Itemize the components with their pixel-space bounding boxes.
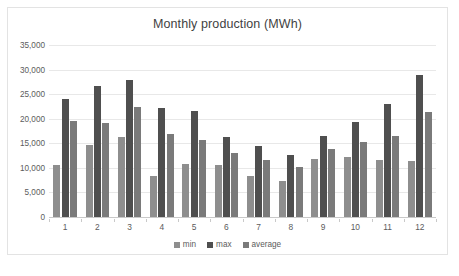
bar-average-month-10[interactable] bbox=[360, 142, 367, 217]
bar-min-month-4[interactable] bbox=[150, 176, 157, 217]
bar-max-month-12[interactable] bbox=[416, 75, 423, 218]
plot-area bbox=[49, 45, 436, 217]
bar-max-month-2[interactable] bbox=[94, 86, 101, 217]
legend-swatch-average bbox=[243, 242, 249, 248]
x-axis-label-5: 5 bbox=[192, 222, 197, 232]
x-axis-label-7: 7 bbox=[256, 222, 261, 232]
x-axis-tick bbox=[49, 219, 50, 222]
x-axis-label-6: 6 bbox=[224, 222, 229, 232]
bar-max-month-3[interactable] bbox=[126, 80, 133, 217]
legend-item-min[interactable]: min bbox=[174, 240, 196, 249]
bars-layer bbox=[49, 45, 436, 217]
y-axis-tick-label: 10,000 bbox=[8, 163, 45, 172]
bar-min-month-6[interactable] bbox=[215, 165, 222, 217]
bar-max-month-4[interactable] bbox=[158, 108, 165, 217]
bar-group-month-8 bbox=[279, 45, 302, 217]
y-axis-labels: 05,00010,00015,00020,00025,00030,00035,0… bbox=[8, 45, 45, 217]
y-axis-tick-label: 5,000 bbox=[8, 188, 45, 197]
bar-min-month-12[interactable] bbox=[408, 161, 415, 218]
bar-average-month-11[interactable] bbox=[392, 136, 399, 217]
bar-min-month-1[interactable] bbox=[53, 165, 60, 217]
y-axis-tick-label: 15,000 bbox=[8, 139, 45, 148]
bar-min-month-8[interactable] bbox=[279, 181, 286, 217]
bar-group-month-2 bbox=[86, 45, 109, 217]
x-axis-label-4: 4 bbox=[160, 222, 165, 232]
chart-container: Monthly production (MWh) 05,00010,00015,… bbox=[7, 7, 448, 255]
bar-max-month-8[interactable] bbox=[287, 155, 294, 217]
bar-group-month-7 bbox=[247, 45, 270, 217]
bar-group-month-11 bbox=[376, 45, 399, 217]
bar-average-month-3[interactable] bbox=[134, 107, 141, 217]
y-axis-tick-label: 20,000 bbox=[8, 114, 45, 123]
legend-item-max[interactable]: max bbox=[207, 240, 231, 249]
bar-max-month-11[interactable] bbox=[384, 104, 391, 217]
x-axis-tick bbox=[436, 219, 437, 222]
chart-title: Monthly production (MWh) bbox=[8, 17, 447, 31]
bar-average-month-5[interactable] bbox=[199, 140, 206, 217]
bar-average-month-12[interactable] bbox=[425, 112, 432, 217]
y-axis-tick-label: 0 bbox=[8, 213, 45, 222]
bar-min-month-2[interactable] bbox=[86, 145, 93, 217]
x-axis-label-10: 10 bbox=[351, 222, 360, 232]
x-axis-tick bbox=[210, 219, 211, 222]
bar-min-month-10[interactable] bbox=[344, 157, 351, 217]
x-axis-tick bbox=[178, 219, 179, 222]
x-axis-labels: 123456789101112 bbox=[49, 219, 436, 235]
x-axis-label-11: 11 bbox=[383, 222, 392, 232]
x-axis-label-1: 1 bbox=[63, 222, 68, 232]
bar-average-month-9[interactable] bbox=[328, 149, 335, 217]
x-axis-tick bbox=[146, 219, 147, 222]
x-axis-label-8: 8 bbox=[289, 222, 294, 232]
x-axis-tick bbox=[275, 219, 276, 222]
legend-label-average: average bbox=[252, 240, 282, 249]
x-axis-line bbox=[49, 217, 436, 218]
x-axis-tick bbox=[404, 219, 405, 222]
x-axis-tick bbox=[243, 219, 244, 222]
bar-max-month-6[interactable] bbox=[223, 137, 230, 217]
bar-average-month-7[interactable] bbox=[263, 160, 270, 217]
bar-group-month-3 bbox=[118, 45, 141, 217]
bar-group-month-1 bbox=[53, 45, 76, 217]
x-axis-tick bbox=[114, 219, 115, 222]
x-axis-tick bbox=[372, 219, 373, 222]
bar-max-month-7[interactable] bbox=[255, 146, 262, 217]
bar-group-month-6 bbox=[215, 45, 238, 217]
legend-swatch-max bbox=[207, 242, 213, 248]
legend-label-min: min bbox=[183, 240, 196, 249]
legend-swatch-min bbox=[174, 242, 180, 248]
bar-min-month-5[interactable] bbox=[182, 164, 189, 217]
bar-group-month-12 bbox=[408, 45, 431, 217]
bar-max-month-5[interactable] bbox=[191, 111, 198, 217]
chart-legend: minmaxaverage bbox=[8, 240, 447, 249]
y-axis-tick-label: 30,000 bbox=[8, 65, 45, 74]
bar-max-month-1[interactable] bbox=[62, 99, 69, 217]
bar-min-month-7[interactable] bbox=[247, 176, 254, 217]
y-axis-tick-label: 25,000 bbox=[8, 90, 45, 99]
bar-average-month-2[interactable] bbox=[102, 123, 109, 217]
bar-average-month-1[interactable] bbox=[70, 121, 77, 217]
bar-average-month-4[interactable] bbox=[167, 134, 174, 217]
x-axis-label-3: 3 bbox=[127, 222, 132, 232]
bar-group-month-10 bbox=[344, 45, 367, 217]
bar-min-month-11[interactable] bbox=[376, 160, 383, 217]
bar-min-month-9[interactable] bbox=[311, 159, 318, 217]
bar-min-month-3[interactable] bbox=[118, 137, 125, 217]
x-axis-tick bbox=[339, 219, 340, 222]
legend-item-average[interactable]: average bbox=[243, 240, 282, 249]
x-axis-label-12: 12 bbox=[415, 222, 424, 232]
bar-average-month-6[interactable] bbox=[231, 153, 238, 217]
bar-max-month-10[interactable] bbox=[352, 122, 359, 217]
x-axis-label-2: 2 bbox=[95, 222, 100, 232]
y-axis-tick-label: 35,000 bbox=[8, 41, 45, 50]
bar-group-month-9 bbox=[311, 45, 334, 217]
bar-average-month-8[interactable] bbox=[296, 167, 303, 217]
x-axis-tick bbox=[81, 219, 82, 222]
bar-max-month-9[interactable] bbox=[320, 136, 327, 217]
legend-label-max: max bbox=[216, 240, 231, 249]
bar-group-month-4 bbox=[150, 45, 173, 217]
x-axis-tick bbox=[307, 219, 308, 222]
bar-group-month-5 bbox=[182, 45, 205, 217]
x-axis-label-9: 9 bbox=[321, 222, 326, 232]
